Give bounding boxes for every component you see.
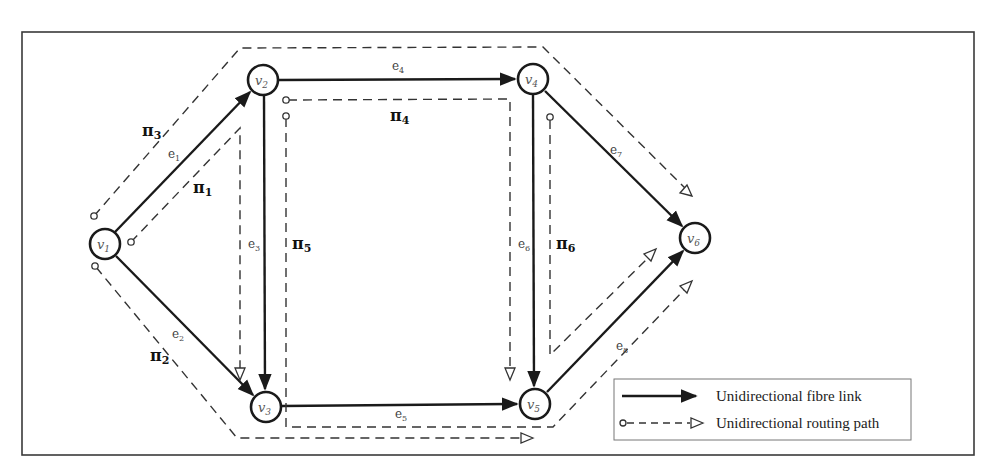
network-diagram: v1 v2 v3 v4 v5 v6 e1 e2 e3 e4 e5 e6 e7 e… (0, 0, 993, 470)
path-pi6-start-icon (547, 114, 553, 120)
edge-label-e3: e3 (248, 237, 260, 253)
node-v3: v3 (251, 392, 281, 422)
path-label-pi3: π3 (142, 121, 161, 142)
edge-label-e8: e8 (616, 339, 628, 355)
edge-label-e1: e1 (168, 147, 180, 163)
legend-link-label: Unidirectional fibre link (716, 388, 862, 404)
path-label-pi6: π6 (556, 234, 576, 255)
path-pi1 (131, 128, 240, 368)
path-pi4-start-icon (283, 97, 289, 103)
path-pi6-arrow-icon (644, 249, 656, 261)
path-pi2-start-icon (92, 263, 98, 269)
edge-label-e4: e4 (392, 59, 404, 75)
edge-e5 (282, 404, 517, 406)
path-pi5-start-icon (283, 113, 289, 119)
edge-e4 (279, 79, 515, 80)
path-label-pi2: π2 (150, 346, 169, 367)
legend: Unidirectional fibre link Unidirectional… (614, 379, 911, 440)
edge-label-e2: e2 (172, 327, 184, 343)
path-label-pi1: π1 (193, 178, 212, 199)
edge-e1 (115, 92, 250, 232)
edge-label-e5: e5 (395, 407, 407, 423)
path-label-pi4: π4 (390, 106, 410, 127)
edge-e7 (545, 91, 682, 226)
edge-e6 (533, 95, 534, 386)
legend-path-label: Unidirectional routing path (716, 415, 880, 431)
edge-e8 (547, 251, 683, 392)
path-pi3-start-icon (91, 213, 97, 219)
edge-label-e7: e7 (610, 143, 622, 159)
path-pi4 (288, 99, 510, 368)
fibre-links (115, 79, 683, 406)
path-pi3-arrow-icon (680, 185, 692, 196)
path-label-pi5: π5 (292, 234, 311, 255)
edge-e3 (264, 96, 265, 389)
path-pi4-arrow-icon (505, 368, 515, 380)
edge-label-e6: e6 (518, 237, 530, 253)
path-pi5-arrow-icon (680, 281, 692, 293)
node-v4: v4 (518, 64, 548, 94)
node-v5: v5 (520, 389, 550, 419)
path-pi3 (94, 47, 687, 216)
path-pi2-arrow-icon (521, 433, 533, 443)
node-v2: v2 (248, 65, 278, 95)
node-v6: v6 (680, 223, 710, 253)
path-pi1-start-icon (128, 239, 134, 245)
legend-path-start-icon (620, 420, 626, 426)
node-v1: v1 (90, 229, 120, 259)
